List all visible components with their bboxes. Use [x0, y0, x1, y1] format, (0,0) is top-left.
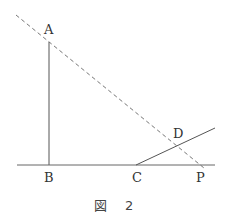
caption-number: 2: [125, 198, 133, 213]
label-A: A: [43, 22, 54, 37]
caption-prefix: 図: [94, 198, 107, 213]
dashed-line-AP: [16, 15, 204, 168]
label-C: C: [132, 170, 142, 185]
label-D: D: [173, 126, 183, 141]
geometry-figure: A B C D P 図 2: [0, 0, 228, 222]
label-P: P: [196, 170, 205, 185]
label-B: B: [44, 170, 54, 185]
